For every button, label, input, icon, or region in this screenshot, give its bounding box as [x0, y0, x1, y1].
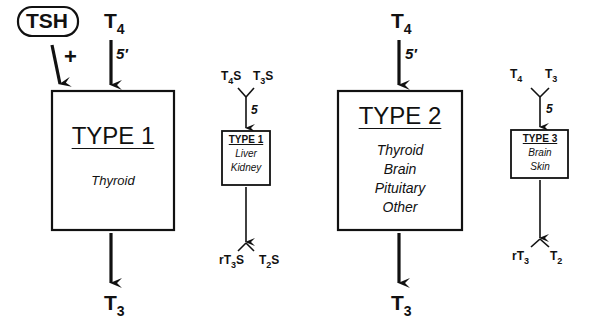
rt3s-subscript: 3	[231, 260, 236, 270]
type2-title: TYPE 2	[359, 104, 442, 128]
t3s-suffix: S	[265, 69, 273, 83]
type3-tissue-skin: Skin	[530, 160, 549, 173]
type1-tissue-thyroid: Thyroid	[91, 171, 134, 190]
type3-fork-out-right	[540, 239, 549, 247]
t4s-label: T4S	[221, 70, 241, 82]
type3-position-label: 5	[546, 103, 553, 115]
type3-fork-right	[540, 88, 549, 97]
rt3s-label: rT3S	[219, 254, 244, 266]
type1s-fork-right	[246, 88, 254, 97]
type1s-fork-out-right	[246, 243, 254, 251]
type1-box	[52, 91, 174, 230]
rt3-subscript: 3	[524, 256, 529, 266]
type3-tissue-brain: Brain	[528, 146, 551, 159]
t4-subscript: 4	[117, 21, 125, 37]
type1-position-label: 5′	[116, 46, 128, 61]
t3-subscript: 3	[404, 303, 412, 319]
type2-tissue-brain: Brain	[384, 160, 417, 179]
t4-subscript: 4	[404, 21, 412, 37]
t4-base: T	[104, 9, 117, 32]
type1s-position-label: 5	[251, 104, 258, 116]
type3-fork-out-left	[531, 239, 540, 247]
type1s-tissue-liver: Liver	[235, 147, 257, 160]
rt3-base: T	[517, 249, 524, 263]
t2s-label: T2S	[259, 254, 279, 266]
type1-title: TYPE 1	[72, 124, 155, 148]
t3s-subscript: 3	[260, 76, 265, 86]
t4-base: T	[391, 9, 404, 32]
type3-fork-left	[531, 88, 540, 97]
t2-subscript: 2	[557, 256, 562, 266]
type3-t2-label: T2	[550, 250, 562, 262]
type2-tissue-thyroid: Thyroid	[377, 141, 424, 160]
rt3s-suffix: S	[236, 253, 244, 267]
type2-tissue-pituitary: Pituitary	[375, 179, 426, 198]
type2-position-label: 5′	[405, 46, 417, 61]
t2s-suffix: S	[271, 253, 279, 267]
rt3s-base: T	[224, 253, 231, 267]
type3-t3-label: T3	[545, 68, 557, 80]
type3-rt3-label: rT3	[512, 250, 529, 262]
t3-subscript: 3	[552, 74, 557, 84]
diagram-canvas	[0, 0, 589, 326]
t2s-subscript: 2	[266, 260, 271, 270]
type1-input-label: T4	[104, 10, 125, 31]
t4s-subscript: 4	[228, 76, 233, 86]
t4-subscript: 4	[517, 74, 522, 84]
type1s-tissue-kidney: Kidney	[231, 161, 262, 174]
t3-subscript: 3	[117, 303, 125, 319]
type3-t4-label: T4	[510, 68, 522, 80]
type2-input-label: T4	[391, 10, 412, 31]
t4s-suffix: S	[233, 69, 241, 83]
type1-output-label: T3	[104, 292, 125, 313]
type2-tissue-other: Other	[382, 198, 417, 217]
t3-base: T	[104, 291, 117, 314]
t3-base: T	[391, 291, 404, 314]
type2-output-label: T3	[391, 292, 412, 313]
t3s-label: T3S	[253, 70, 273, 82]
tsh-label: TSH	[26, 10, 68, 31]
type1s-fork-left	[238, 88, 246, 97]
type1s-title: TYPE 1	[229, 135, 263, 145]
type1s-fork-out-left	[238, 243, 246, 251]
type3-title: TYPE 3	[523, 134, 557, 144]
tsh-plus-sign: +	[64, 46, 77, 68]
tsh-stimulation-arrow	[52, 45, 60, 84]
